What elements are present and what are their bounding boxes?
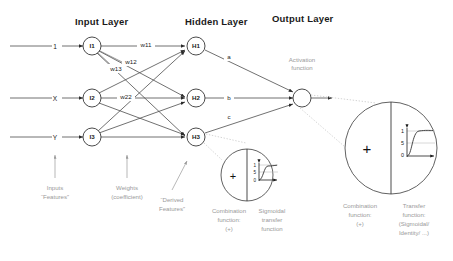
weight-label-w13: w13 xyxy=(109,65,122,72)
small-axis-label-bottom: 0 xyxy=(253,178,256,183)
large-caption-right-line1: Transfer xyxy=(403,202,425,209)
title-hidden-layer: Hidden Layer xyxy=(185,16,248,27)
output-weight-label-b: b xyxy=(227,94,231,101)
inputs-annotation-line1: Inputs xyxy=(47,184,64,191)
small-caption-right-line2: transfer xyxy=(262,216,283,223)
title-input-layer: Input Layer xyxy=(75,16,129,27)
output-weight-label-a: a xyxy=(227,53,231,60)
input-signal-label-3: Y xyxy=(53,134,58,141)
large-caption-left-line2: function: xyxy=(348,211,371,218)
activation-function-label-line1: Activation xyxy=(289,56,315,63)
weight-label-w11: w11 xyxy=(140,41,152,48)
weights-annotation-line1: Weights xyxy=(116,184,138,191)
small-axis-label-top: 1 xyxy=(253,163,256,168)
small-caption-right-line3: function xyxy=(261,225,282,232)
derived-features-annotation-line1: “Derived xyxy=(160,196,183,203)
input-node-label-I3: I3 xyxy=(89,133,95,140)
diagram-canvas: Input Layer Hidden Layer Output Layer 1 … xyxy=(0,0,453,261)
small-caption-left-line3: (+) xyxy=(225,225,233,232)
large-axis-label-mid: 5 xyxy=(401,140,404,146)
weight-label-w12: w12 xyxy=(124,58,137,65)
small-axis-label-mid: 5 xyxy=(253,170,256,175)
large-combination-plus: + xyxy=(363,140,372,157)
large-caption-right-line2: function: xyxy=(402,211,425,218)
neural-network-diagram: Input Layer Hidden Layer Output Layer 1 … xyxy=(0,0,453,261)
large-caption-left-line3: (+) xyxy=(356,220,364,227)
large-caption-left-line1: Combination xyxy=(343,202,377,209)
small-caption-right-line1: Sigmoidal xyxy=(259,207,286,214)
large-caption-right-line3: (Sigmoidal/ xyxy=(399,220,430,227)
input-signal-label-2: X xyxy=(53,95,58,102)
small-caption-left-line2: function: xyxy=(217,216,240,223)
title-output-layer: Output Layer xyxy=(272,13,334,24)
weights-annotation-line2: (coefficient) xyxy=(111,193,142,200)
derived-features-annotation-line2: Features” xyxy=(159,205,185,212)
input-node-label-I1: I1 xyxy=(89,42,95,49)
small-combination-plus: + xyxy=(230,170,236,182)
hidden-node-label-H2: H2 xyxy=(192,94,200,101)
activation-function-label-line2: function xyxy=(291,64,312,71)
output-node xyxy=(293,89,311,107)
weight-label-w22: w22 xyxy=(119,93,132,100)
output-weight-label-c: c xyxy=(227,113,230,120)
input-node-label-I2: I2 xyxy=(89,94,95,101)
large-axis-label-bottom: 0 xyxy=(401,152,404,158)
large-axis-label-top: 1 xyxy=(401,128,404,134)
input-signal-label-1: 1 xyxy=(53,43,57,50)
inputs-annotation-line2: “Features” xyxy=(41,193,69,200)
hidden-node-label-H1: H1 xyxy=(192,42,200,49)
hidden-node-label-H3: H3 xyxy=(192,133,200,140)
small-caption-left-line1: Combination xyxy=(212,207,246,214)
large-caption-right-line4: Identity/ ...) xyxy=(399,229,429,236)
